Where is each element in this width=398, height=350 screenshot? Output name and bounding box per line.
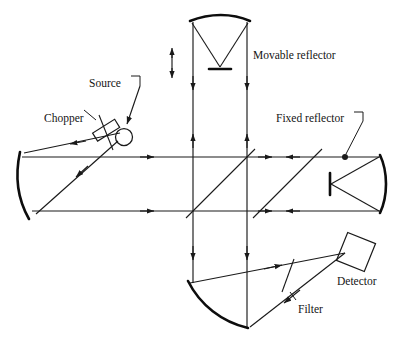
label-source: Source (89, 77, 121, 89)
beam-from-detector-lower (250, 253, 345, 327)
bottom-mirror-arc (188, 281, 248, 328)
movable-converge-right (220, 23, 248, 67)
beamsplitter-lower (253, 149, 322, 218)
arrow-to-detector-upper (264, 265, 282, 269)
label-movable-reflector: Movable reflector (253, 49, 336, 61)
source-leader-hook (131, 76, 140, 86)
fixed-reflector-arc (380, 155, 386, 213)
arrow-from-detector-lower (284, 290, 300, 303)
fixed-converge-top (331, 157, 379, 184)
optical-diagram-figure: Source Chopper Movable reflector Fixed r… (0, 0, 398, 350)
beam-source-to-mirror (36, 141, 118, 214)
fixed-reflector-assembly (330, 154, 386, 213)
label-leader-lines (84, 76, 363, 300)
source-circle (116, 129, 133, 146)
arrow-source-to-mirror (76, 166, 88, 177)
source-leader-arrow (127, 86, 140, 124)
left-mirror-arc (17, 152, 29, 219)
label-detector: Detector (337, 275, 377, 287)
beam-direction-arrows (140, 76, 300, 260)
beamsplitter-upper (186, 149, 255, 218)
beamsplitters (186, 149, 322, 218)
chopper-leader (84, 110, 96, 120)
movable-reflector-arc (190, 15, 250, 21)
left-collimating-mirror (17, 152, 29, 219)
movable-reflector-assembly (172, 15, 250, 78)
movable-converge-left (192, 23, 220, 67)
label-filter: Filter (298, 303, 323, 315)
label-chopper: Chopper (44, 112, 84, 125)
fixed-converge-bottom (331, 184, 379, 211)
diagram-canvas: Source Chopper Movable reflector Fixed r… (0, 0, 398, 350)
bottom-focusing-mirror (188, 281, 248, 328)
label-fixed-reflector: Fixed reflector (276, 112, 344, 124)
fixed-leader-line (346, 121, 363, 154)
detector-box-rect (336, 232, 375, 271)
detector-box (336, 232, 375, 271)
fixed-leader-hook (354, 112, 363, 121)
source-chopper-assembly (24, 115, 133, 214)
fixed-reflector-leader-dot (342, 154, 348, 160)
